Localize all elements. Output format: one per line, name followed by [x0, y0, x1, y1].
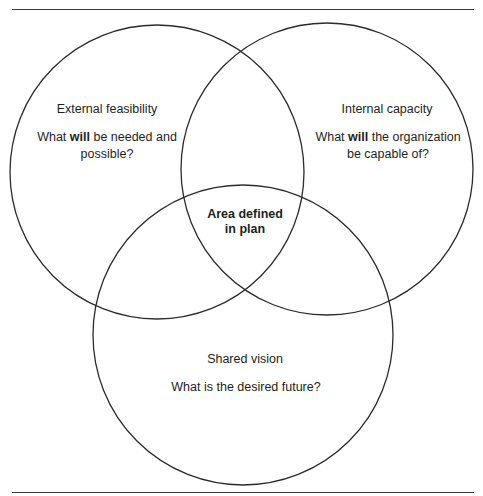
question-text: possible? [81, 147, 134, 161]
question-text: be needed and [90, 130, 177, 144]
intersection-line-1: Area defined [207, 207, 283, 221]
circle-internal-capacity [181, 23, 473, 315]
circle-external-feasibility [10, 25, 304, 319]
question-emphasis: will [348, 130, 368, 144]
question-text: What [315, 130, 348, 144]
venn-diagram [0, 0, 483, 496]
intersection-label: Area defined in plan [207, 207, 283, 237]
external-feasibility-title: External feasibility [57, 101, 158, 118]
question-text: be capable of? [347, 147, 429, 161]
question-text: the organization [368, 130, 460, 144]
internal-capacity-title: Internal capacity [341, 101, 432, 118]
internal-capacity-question: What will the organization be capable of… [315, 129, 460, 163]
question-emphasis: will [70, 130, 90, 144]
intersection-line-2: in plan [225, 222, 265, 236]
external-feasibility-question: What will be needed and possible? [37, 129, 177, 163]
question-text: What [37, 130, 70, 144]
shared-vision-title: Shared vision [207, 351, 283, 368]
shared-vision-question: What is the desired future? [171, 379, 320, 396]
